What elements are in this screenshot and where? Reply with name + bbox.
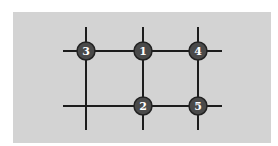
grid-diagram: 31425 [0, 0, 278, 146]
node-2: 2 [134, 97, 152, 115]
node-4: 4 [189, 42, 207, 60]
node-label: 4 [194, 45, 202, 58]
node-label: 3 [82, 45, 90, 58]
node-label: 5 [194, 100, 202, 113]
node-label: 2 [139, 100, 147, 113]
node-label: 1 [139, 45, 147, 58]
node-3: 3 [77, 42, 95, 60]
node-5: 5 [189, 97, 207, 115]
node-1: 1 [134, 42, 152, 60]
